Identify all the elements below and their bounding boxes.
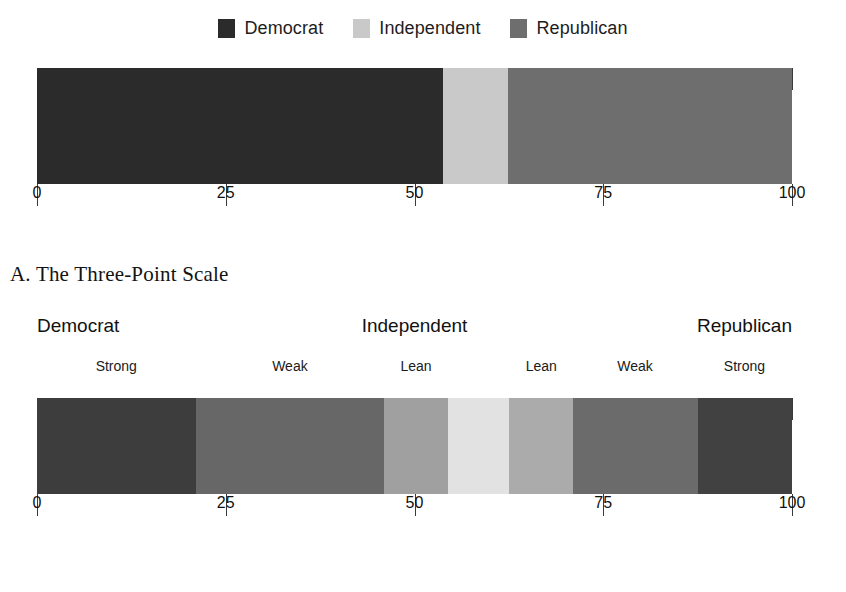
legend-swatch-democrat xyxy=(218,19,235,38)
axis-tick-100 xyxy=(792,398,793,420)
bar-segment-strong-republican xyxy=(698,398,792,494)
bar-segment-lean-republican xyxy=(509,398,573,494)
legend-label-democrat: Democrat xyxy=(244,18,323,39)
seven-point-stacked-bar xyxy=(37,398,792,494)
legend-item-republican: Republican xyxy=(510,18,627,39)
legend-swatch-independent xyxy=(353,19,370,38)
legend-item-democrat: Democrat xyxy=(218,18,323,39)
bar-segment-democrat xyxy=(37,68,443,184)
bar-segment-weak-republican xyxy=(573,398,698,494)
legend-label-independent: Independent xyxy=(379,18,480,39)
sub-label-2-lean: Lean xyxy=(400,358,431,374)
bar-segment-strong-democrat xyxy=(37,398,196,494)
tick-label-25: 25 xyxy=(217,494,235,512)
tick-label-50: 50 xyxy=(406,184,424,202)
chart-legend: Democrat Independent Republican xyxy=(0,18,846,39)
tick-label-100: 100 xyxy=(779,184,806,202)
bar-segment-independent xyxy=(448,398,508,494)
axis-tick-100 xyxy=(792,68,793,90)
legend-label-republican: Republican xyxy=(536,18,627,39)
sub-label-3-lean: Lean xyxy=(526,358,557,374)
bottom-axis-tick-labels: 0255075100 xyxy=(37,494,792,514)
tick-label-100: 100 xyxy=(779,494,806,512)
seven-point-scale-chart: 0255075100 xyxy=(37,398,792,514)
sub-label-5-strong: Strong xyxy=(724,358,765,374)
legend-swatch-republican xyxy=(510,19,527,38)
group-label-independent: Independent xyxy=(362,315,468,337)
tick-label-75: 75 xyxy=(594,184,612,202)
sub-label-4-weak: Weak xyxy=(617,358,653,374)
group-label-democrat: Democrat xyxy=(37,315,119,337)
three-point-stacked-bar xyxy=(37,68,792,184)
bar-segment-weak-democrat xyxy=(196,398,385,494)
tick-label-0: 0 xyxy=(33,184,42,202)
tick-label-0: 0 xyxy=(33,494,42,512)
tick-label-50: 50 xyxy=(406,494,424,512)
bar-segment-lean-democrat xyxy=(384,398,448,494)
three-point-scale-chart: 0255075100 xyxy=(37,68,792,204)
scale-sub-labels: StrongWeakLeanLeanWeakStrong xyxy=(37,358,792,378)
sub-label-0-strong: Strong xyxy=(96,358,137,374)
sub-label-1-weak: Weak xyxy=(272,358,308,374)
tick-label-75: 75 xyxy=(594,494,612,512)
scale-group-labels: Democrat Independent Republican xyxy=(37,315,792,339)
bar-segment-independent xyxy=(443,68,508,184)
top-axis-tick-labels: 0255075100 xyxy=(37,184,792,204)
bar-segment-republican xyxy=(508,68,792,184)
tick-label-25: 25 xyxy=(217,184,235,202)
panel-caption-a: A. The Three-Point Scale xyxy=(10,262,229,287)
group-label-republican: Republican xyxy=(697,315,792,337)
legend-item-independent: Independent xyxy=(353,18,480,39)
